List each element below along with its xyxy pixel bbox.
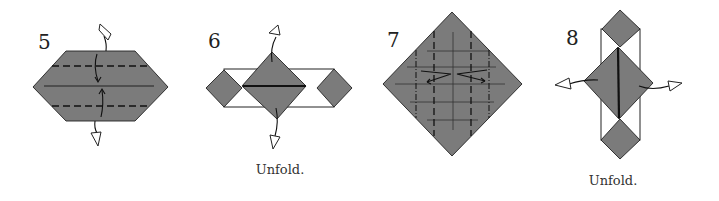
step-7: 7 [383, 12, 522, 156]
step-number: 5 [38, 30, 51, 54]
origami-diagram: 5 6 Unfold. 7 [0, 0, 719, 201]
open-arrowhead-icon [555, 78, 571, 89]
unfold-arrow-down-icon [95, 121, 97, 133]
open-arrowhead-icon [270, 135, 280, 149]
open-arrowhead-icon [668, 81, 682, 91]
step-6: 6 Unfold. [206, 25, 352, 177]
step-5: 5 [33, 24, 168, 146]
center-crease [618, 48, 619, 118]
step-number: 7 [387, 28, 400, 52]
caption-unfold: Unfold. [256, 162, 305, 177]
step-number: 6 [208, 29, 221, 53]
caption-unfold: Unfold. [589, 173, 638, 188]
step-number: 8 [566, 26, 579, 50]
step-8: 8 Unfold. [555, 10, 682, 188]
open-arrowhead-icon [269, 25, 280, 35]
open-arrowhead-icon [91, 132, 101, 146]
